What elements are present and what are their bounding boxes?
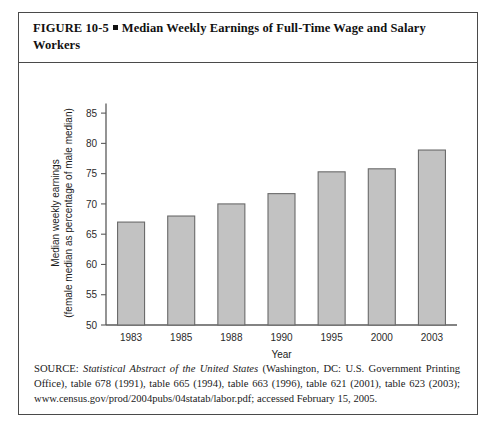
- square-bullet-icon: [113, 25, 118, 30]
- page-title: FIGURE 10-5Median Weekly Earnings of Ful…: [33, 20, 461, 54]
- y-axis-tick-label: 75: [86, 168, 98, 179]
- bar-chart: 5055606570758085198319851988199019952000…: [19, 63, 477, 358]
- y-axis-title-line2: (female median as percentage of male med…: [63, 108, 74, 318]
- y-axis-tick-label: 60: [86, 259, 98, 270]
- y-axis-tick-label: 80: [86, 138, 98, 149]
- y-axis-tick-label: 85: [86, 108, 98, 119]
- bar-1983: [118, 222, 145, 325]
- figure-title-band: FIGURE 10-5Median Weekly Earnings of Ful…: [19, 13, 477, 63]
- bar-1990: [268, 194, 295, 325]
- x-axis-title: Year: [271, 349, 292, 358]
- x-axis-tick-label: 1985: [170, 332, 193, 343]
- x-axis-tick-label: 2000: [371, 332, 394, 343]
- x-axis-tick-label: 1988: [220, 332, 243, 343]
- y-axis-tick-label: 50: [86, 320, 98, 331]
- figure-container: FIGURE 10-5Median Weekly Earnings of Ful…: [18, 12, 478, 415]
- y-axis-tick-label: 70: [86, 199, 98, 210]
- y-axis-title-line1: Median weekly earnings: [50, 159, 61, 266]
- y-axis-tick-label: 65: [86, 229, 98, 240]
- source-note: SOURCE: Statistical Abstract of the Unit…: [19, 361, 477, 406]
- x-axis-tick-label: 1990: [270, 332, 293, 343]
- bar-1985: [168, 216, 195, 325]
- y-axis-tick-label: 55: [86, 289, 98, 300]
- source-prefix: SOURCE:: [34, 363, 83, 374]
- x-axis-tick-label: 1983: [120, 332, 143, 343]
- x-axis-tick-label: 1995: [321, 332, 344, 343]
- bar-2000: [368, 169, 395, 325]
- x-axis-tick-label: 2003: [421, 332, 444, 343]
- bar-1988: [218, 204, 245, 325]
- source-publication-title: Statistical Abstract of the United State…: [83, 363, 258, 374]
- figure-label: FIGURE 10-5: [33, 21, 109, 35]
- bar-1995: [318, 172, 345, 325]
- chart-plot-area: 5055606570758085198319851988199019952000…: [19, 63, 477, 358]
- bar-2003: [418, 150, 445, 325]
